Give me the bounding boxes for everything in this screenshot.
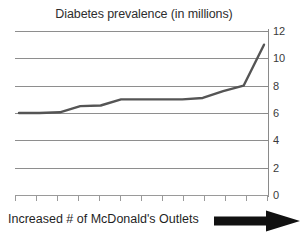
series-polyline [19,45,264,113]
x-tick-mark-0 [15,196,16,201]
y-tick-label-2: 2 [273,163,279,174]
y-tick-label-6: 6 [273,108,279,119]
plot-area [15,31,268,195]
chart-title: Diabetes prevalence (in millions) [0,7,288,21]
x-tick-mark-1 [36,196,37,201]
x-tick-mark-2 [57,196,58,201]
y-tick-label-8: 8 [273,81,279,92]
y-tick-label-4: 4 [273,135,279,146]
y-tick-mark-12 [263,31,269,32]
y-tick-mark-10 [263,58,269,59]
y-tick-mark-6 [263,113,269,114]
x-tick-mark-8 [183,196,184,201]
x-tick-mark-6 [141,196,142,201]
y-tick-label-0: 0 [273,190,279,201]
y-tick-mark-8 [263,86,269,87]
x-axis-caption-row: Increased # of McDonald's Outlets [8,209,304,235]
x-axis-caption-label: Increased # of McDonald's Outlets [8,212,199,226]
series-line-diabetes-prevalence [15,31,268,195]
x-tick-mark-11 [246,196,247,201]
x-tick-mark-3 [78,196,79,201]
right-arrow-icon [214,209,300,233]
y-tick-mark-2 [263,168,269,169]
x-tick-mark-10 [225,196,226,201]
x-tick-mark-5 [120,196,121,201]
y-tick-mark-4 [263,140,269,141]
y-tick-label-12: 12 [273,26,285,37]
x-tick-mark-9 [204,196,205,201]
chart-figure: Diabetes prevalence (in millions) 12 10 … [0,0,308,237]
x-tick-mark-4 [99,196,100,201]
y-tick-label-10: 10 [273,53,285,64]
x-tick-mark-12 [267,196,268,201]
x-axis-spine [15,195,269,196]
x-tick-mark-7 [162,196,163,201]
